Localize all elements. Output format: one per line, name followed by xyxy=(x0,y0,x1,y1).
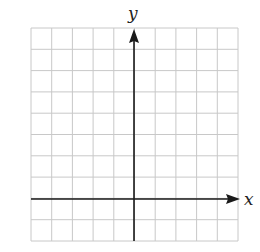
x-axis-label: x xyxy=(244,189,254,209)
y-axis-arrow-icon xyxy=(129,29,139,43)
coordinate-plane: x y xyxy=(0,0,260,252)
y-axis-label: y xyxy=(127,3,138,23)
